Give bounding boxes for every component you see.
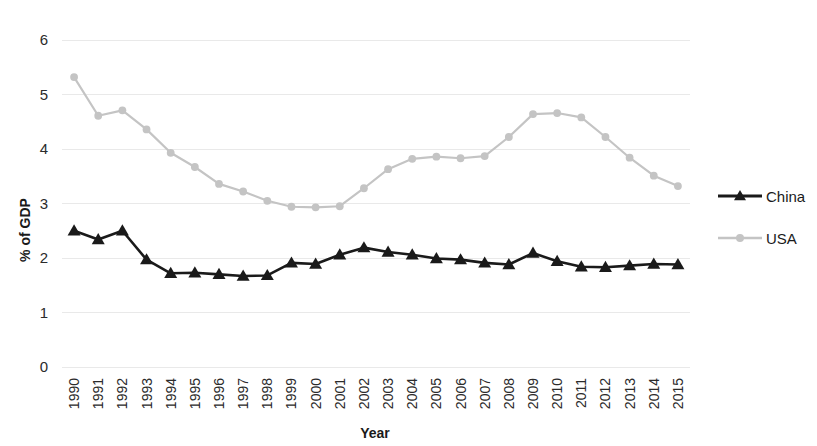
x-tick-label: 1991 [90, 378, 106, 409]
x-axis-title: Year [360, 425, 390, 441]
x-tick-label: 1994 [163, 378, 179, 409]
data-point [384, 165, 392, 173]
x-tick-label: 1995 [187, 378, 203, 409]
data-point [602, 133, 610, 141]
x-tick-label: 1992 [114, 378, 130, 409]
x-tick-label: 2012 [597, 378, 613, 409]
data-point [94, 112, 102, 120]
x-tick-label: 1993 [139, 378, 155, 409]
x-tick-label: 2005 [428, 378, 444, 409]
data-point [70, 73, 78, 81]
data-point [191, 163, 199, 171]
x-tick-label: 1990 [66, 378, 82, 409]
y-tick-label: 0 [40, 358, 48, 375]
y-tick-label: 2 [40, 249, 48, 266]
data-point [481, 152, 489, 160]
data-point [288, 203, 296, 211]
data-point [626, 154, 634, 162]
x-tick-label: 2006 [453, 378, 469, 409]
data-point [239, 188, 247, 196]
data-point [143, 125, 151, 133]
x-tick-label: 2013 [622, 378, 638, 409]
x-tick-label: 2011 [573, 378, 589, 408]
x-tick-label: 1997 [235, 378, 251, 409]
legend-label: China [766, 188, 806, 205]
y-tick-label: 6 [40, 31, 48, 48]
data-point [457, 154, 465, 162]
data-point [360, 184, 368, 192]
x-tick-label: 2014 [646, 378, 662, 409]
data-point [118, 106, 126, 114]
x-tick-label: 2002 [356, 378, 372, 409]
data-point [674, 182, 682, 190]
x-tick-label: 2004 [404, 378, 420, 409]
x-tick-label: 2015 [670, 378, 686, 409]
x-tick-label: 2000 [308, 378, 324, 409]
y-tick-label: 3 [40, 195, 48, 212]
x-tick-label: 2008 [501, 378, 517, 409]
line-chart: 0123456 19901991199219931994199519961997… [0, 0, 817, 446]
data-point [577, 113, 585, 121]
legend-label: USA [766, 230, 797, 247]
y-axis-title: % of GDP [17, 198, 33, 262]
x-tick-label: 1996 [211, 378, 227, 409]
y-tick-label: 4 [40, 140, 48, 157]
x-tick-label: 2001 [332, 378, 348, 409]
y-tick-label: 5 [40, 86, 48, 103]
legend-marker [736, 234, 744, 242]
data-point [408, 155, 416, 163]
x-tick-label: 2007 [477, 378, 493, 409]
data-point [505, 133, 513, 141]
data-point [336, 202, 344, 210]
y-tick-label: 1 [40, 304, 48, 321]
x-tick-label: 2010 [549, 378, 565, 409]
data-point [215, 180, 223, 188]
chart-container: 0123456 19901991199219931994199519961997… [0, 0, 817, 446]
x-tick-label: 1999 [283, 378, 299, 409]
data-point [553, 109, 561, 117]
data-point [263, 197, 271, 205]
x-tick-label: 2009 [525, 378, 541, 409]
data-point [650, 172, 658, 180]
x-tick-label: 2003 [380, 378, 396, 409]
data-point [167, 149, 175, 157]
data-point [529, 110, 537, 118]
data-point [432, 153, 440, 161]
x-tick-label: 1998 [259, 378, 275, 409]
data-point [312, 203, 320, 211]
